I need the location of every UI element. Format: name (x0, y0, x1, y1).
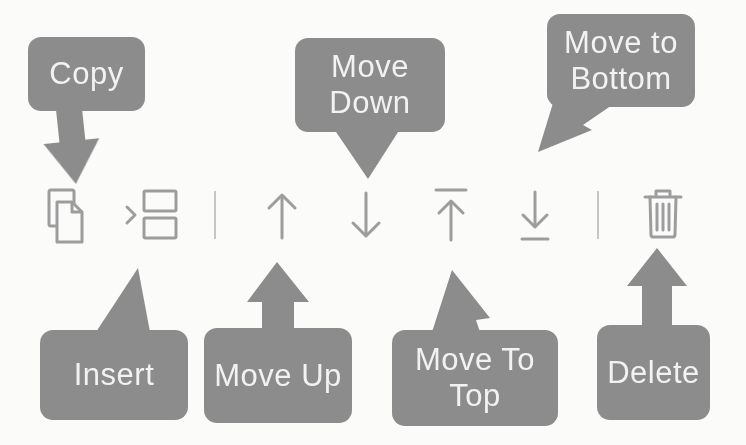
callout-copy-tail (35, 106, 111, 189)
callout-move-to-bottom: Move to Bottom (547, 14, 695, 107)
copy-button[interactable] (42, 186, 92, 246)
move-to-bottom-button[interactable] (515, 189, 555, 245)
delete-button[interactable] (638, 187, 688, 243)
callout-insert-tail (92, 266, 158, 334)
trash-icon (638, 187, 688, 243)
callout-delete-label: Delete (607, 355, 700, 391)
move-to-top-button[interactable] (431, 187, 471, 243)
callout-move-to-bottom-label: Move to Bottom (564, 25, 678, 97)
callout-move-to-bottom-tail (535, 103, 617, 155)
callout-move-up-label: Move Up (214, 358, 342, 394)
callout-delete-tail (623, 246, 691, 328)
toolbar-divider (214, 191, 216, 239)
callout-move-down: Move Down (295, 38, 445, 132)
move-to-top-icon (431, 187, 471, 243)
callout-move-up-tail (241, 260, 313, 332)
callout-move-to-top-tail (425, 266, 497, 334)
callout-copy-label: Copy (49, 56, 123, 92)
copy-icon (42, 186, 92, 246)
arrow-down-icon (346, 190, 386, 242)
toolbar-divider (597, 191, 599, 239)
move-to-bottom-icon (515, 189, 555, 245)
move-down-button[interactable] (346, 190, 386, 242)
callout-move-down-tail (328, 129, 406, 181)
callout-insert: Insert (40, 330, 188, 420)
insert-icon (122, 189, 178, 241)
callout-move-to-top: Move To Top (392, 330, 558, 426)
arrow-up-icon (262, 189, 302, 241)
callout-copy: Copy (28, 37, 145, 111)
callout-move-down-label: Move Down (329, 49, 410, 121)
callout-delete: Delete (597, 325, 710, 420)
move-up-button[interactable] (262, 189, 302, 241)
annotated-toolbar-figure: Copy Move Down Move to Bottom Insert Mov… (0, 0, 746, 445)
callout-move-to-top-label: Move To Top (415, 342, 535, 414)
callout-move-up: Move Up (204, 328, 352, 423)
callout-insert-label: Insert (74, 357, 155, 393)
insert-button[interactable] (122, 189, 178, 241)
